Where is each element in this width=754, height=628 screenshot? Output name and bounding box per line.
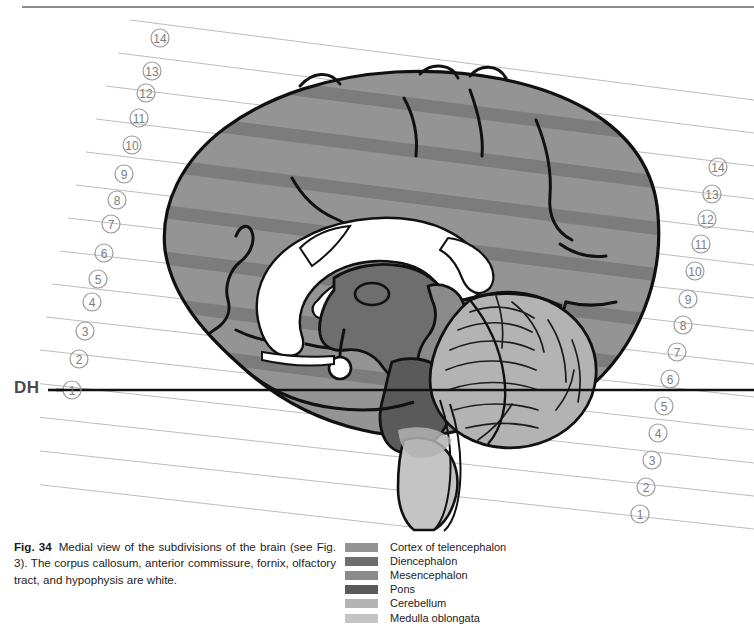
figure-caption-text: Medial view of the subdivisions of the b… <box>14 540 336 586</box>
svg-text:2: 2 <box>76 353 83 367</box>
svg-text:5: 5 <box>95 273 102 287</box>
figure-number: Fig. 34 <box>14 540 52 553</box>
legend-swatch-cerebellum <box>345 599 378 608</box>
legend-item-cerebellum: Cerebellum <box>345 597 645 611</box>
svg-text:5: 5 <box>661 400 668 414</box>
svg-text:9: 9 <box>121 168 128 182</box>
legend-swatch-mesencephalon <box>345 571 378 580</box>
legend-swatch-cortex-of-telencephalon <box>345 543 378 552</box>
svg-text:7: 7 <box>674 346 681 360</box>
svg-text:3: 3 <box>649 454 656 468</box>
svg-text:11: 11 <box>695 238 708 252</box>
svg-text:13: 13 <box>705 188 719 202</box>
svg-text:12: 12 <box>139 87 153 101</box>
legend-item-medulla-oblongata: Medulla oblongata <box>345 611 645 625</box>
figure-caption: Fig. 34Medial view of the subdivisions o… <box>14 539 336 588</box>
legend-swatch-medulla-oblongata <box>345 614 378 623</box>
svg-text:10: 10 <box>125 139 139 153</box>
svg-text:6: 6 <box>101 247 108 261</box>
legend-item-mesencephalon: Mesencephalon <box>345 568 645 582</box>
legend-swatch-diencephalon <box>345 557 378 566</box>
brain-diagram: 14 13 12 11 10 9 8 7 6 5 4 3 2 1 14 13 1… <box>0 0 754 532</box>
svg-text:9: 9 <box>685 293 692 307</box>
svg-text:14: 14 <box>711 161 725 175</box>
left-scale-circles: 14 13 12 11 10 9 8 7 6 5 4 3 2 1 <box>63 29 169 399</box>
svg-text:14: 14 <box>153 32 167 46</box>
svg-text:7: 7 <box>108 218 115 232</box>
legend-item-pons: Pons <box>345 583 645 597</box>
svg-text:4: 4 <box>89 296 96 310</box>
legend-item-diencephalon: Diencephalon <box>345 554 645 568</box>
legend-label-medulla-oblongata: Medulla oblongata <box>390 613 480 624</box>
svg-text:1: 1 <box>69 384 76 398</box>
legend-label-mesencephalon: Mesencephalon <box>390 570 468 581</box>
legend-label-pons: Pons <box>390 584 415 595</box>
legend-label-diencephalon: Diencephalon <box>390 556 457 567</box>
legend-swatch-pons <box>345 585 378 594</box>
svg-text:12: 12 <box>700 213 714 227</box>
figure-page: 14 13 12 11 10 9 8 7 6 5 4 3 2 1 14 13 1… <box>0 0 754 628</box>
svg-text:6: 6 <box>667 373 674 387</box>
svg-text:1: 1 <box>637 508 644 522</box>
svg-text:11: 11 <box>133 112 146 126</box>
svg-text:2: 2 <box>643 481 650 495</box>
legend-label-cortex-of-telencephalon: Cortex of telencephalon <box>390 542 506 553</box>
svg-text:8: 8 <box>114 194 121 208</box>
svg-text:13: 13 <box>145 65 159 79</box>
svg-text:4: 4 <box>655 427 662 441</box>
legend: Cortex of telencephalon Diencephalon Mes… <box>345 540 645 625</box>
svg-text:8: 8 <box>680 319 687 333</box>
legend-item-cortex-of-telencephalon: Cortex of telencephalon <box>345 540 645 554</box>
svg-text:3: 3 <box>82 325 89 339</box>
svg-text:10: 10 <box>688 265 702 279</box>
legend-label-cerebellum: Cerebellum <box>390 598 446 609</box>
dh-label: DH <box>14 378 40 398</box>
